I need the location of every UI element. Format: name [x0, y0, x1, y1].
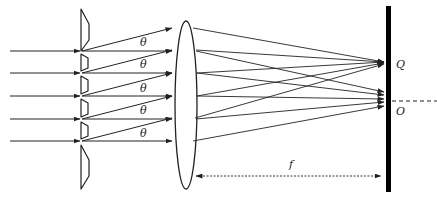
theta-label: θ — [140, 36, 147, 49]
diffracted-rays — [82, 28, 172, 141]
incident-rays — [10, 51, 80, 141]
focal-length-label: f — [288, 158, 295, 171]
converging-lens — [175, 21, 197, 189]
theta-label: θ — [140, 82, 147, 95]
focused-rays — [193, 28, 384, 141]
screen — [386, 6, 391, 192]
theta-label: θ — [140, 58, 147, 71]
theta-label: θ — [140, 127, 147, 140]
theta-label: θ — [140, 104, 147, 117]
blazed-grating — [81, 9, 89, 189]
diffraction-diagram: θ θ θ θ θ Q O f — [0, 0, 437, 200]
point-q-label: Q — [396, 58, 405, 71]
point-o-label: O — [396, 105, 405, 118]
